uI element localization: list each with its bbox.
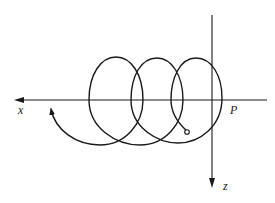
x-axis-label: x — [18, 104, 23, 116]
trajectory-diagram — [0, 0, 275, 203]
start-point-marker — [185, 130, 190, 135]
z-axis-arrow-icon — [209, 178, 215, 188]
diagram-canvas: x P z — [0, 0, 275, 203]
z-axis — [209, 15, 215, 188]
point-p-label: P — [230, 104, 237, 116]
z-axis-label: z — [223, 180, 228, 192]
helix-trajectory — [51, 57, 222, 145]
